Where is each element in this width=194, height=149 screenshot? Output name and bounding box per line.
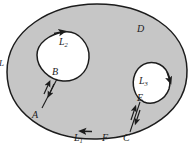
label-contour-l2-base: L [59,36,65,47]
region-diagram-svg [0,0,194,149]
label-contour-l3-sub: 3 [145,80,148,87]
figure-canvas: D L2 B A L1 F C L3 E L [0,0,194,149]
label-contour-l1-base: L [74,132,80,143]
label-contour-l2-sub: 2 [65,41,68,48]
label-contour-l1-sub: 1 [80,137,83,144]
label-point-a: A [32,110,38,120]
label-contour-l2: L2 [59,37,68,47]
label-point-c: C [123,133,130,143]
label-contour-l3-base: L [139,75,145,86]
label-clipped-left-edge: L [0,59,4,68]
label-point-e: E [137,93,143,103]
label-point-b: B [52,67,58,77]
label-point-f: F [102,133,108,143]
label-contour-l3: L3 [139,76,148,86]
label-region-d: D [137,24,144,34]
label-contour-l1: L1 [74,133,83,143]
